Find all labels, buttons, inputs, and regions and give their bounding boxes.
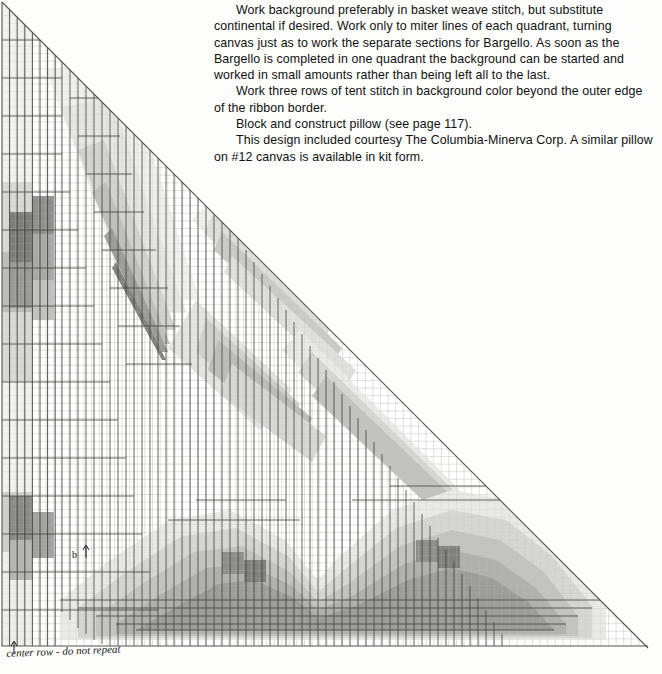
page-root: b center row - do not repeat Work backgr…	[0, 0, 662, 674]
arrow-glyph-b: b	[72, 549, 77, 560]
paragraph-2: Work three rows of tent stitch in backgr…	[214, 83, 654, 116]
paragraph-1: Work background preferably in basket wea…	[214, 2, 654, 83]
instruction-text: Work background preferably in basket wea…	[214, 2, 654, 165]
paragraph-4: This design included courtesy The Columb…	[214, 132, 654, 165]
paragraph-3: Block and construct pillow (see page 117…	[214, 116, 654, 132]
